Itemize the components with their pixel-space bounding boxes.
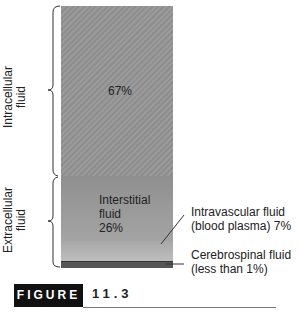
intracellular-group-label: Intracellular fluid	[2, 57, 28, 137]
extracellular-group-label: Extracellular fluid	[2, 180, 28, 260]
figure-rule	[83, 307, 276, 308]
intravascular-callout: Intravascular fluid (blood plasma) 7%	[191, 205, 291, 233]
figure-number: 11.3	[92, 286, 133, 301]
figure-label: FIGURE	[14, 284, 83, 307]
csf-callout: Cerebrospinal fluid (less than 1%)	[191, 248, 291, 276]
